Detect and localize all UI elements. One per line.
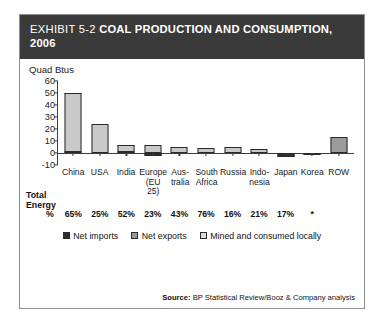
- x-axis-labels: ChinaUSAIndiaEurope(EU 25)Aus-traliaSout…: [60, 168, 352, 198]
- y-axis-unit-label: Quad Btus: [29, 64, 74, 75]
- bar-slot[interactable]: [140, 81, 167, 165]
- legend-label: Mined and consumed locally: [210, 231, 321, 241]
- bar-segment: [330, 137, 347, 153]
- total-energy-value: 52%: [113, 209, 140, 219]
- chart-body: Quad Btus 6050403020100-10 ChinaUSAIndia…: [20, 59, 364, 308]
- bar-slot[interactable]: [299, 81, 326, 165]
- y-axis-tick-mark: [54, 116, 58, 117]
- bar-positive[interactable]: [65, 93, 82, 153]
- bar-slot[interactable]: [272, 81, 299, 165]
- legend-swatch-icon: [131, 232, 138, 239]
- legend-label: Net exports: [142, 231, 187, 241]
- exhibit-card: EXHIBIT 5-2 COAL PRODUCTION AND CONSUMPT…: [19, 14, 365, 309]
- x-axis-tick-mark: [126, 153, 127, 156]
- x-axis-label: SouthAfrica: [193, 168, 219, 198]
- y-axis-tick-mark: [54, 104, 58, 105]
- y-axis-tick-mark: [54, 128, 58, 129]
- y-axis-tick-mark: [54, 140, 58, 141]
- y-axis-tick-mark: [54, 152, 58, 153]
- total-energy-value: 17%: [272, 209, 299, 219]
- bar-slot[interactable]: [60, 81, 87, 165]
- total-energy-value: 76%: [193, 209, 220, 219]
- exhibit-eyebrow: EXHIBIT 5-2: [30, 23, 96, 35]
- y-axis-tick-label: -10: [42, 160, 55, 170]
- x-axis-label-line: USA: [86, 168, 112, 178]
- legend-item[interactable]: Net exports: [131, 231, 186, 241]
- bar-positive[interactable]: [118, 145, 135, 152]
- x-axis-tick-mark: [232, 153, 233, 156]
- total-energy-value: 21%: [246, 209, 273, 219]
- bar-segment: [65, 93, 82, 151]
- x-axis-label-line: China: [60, 168, 86, 178]
- legend-item[interactable]: Net imports: [63, 231, 118, 241]
- bar-group: [60, 81, 352, 165]
- bar-positive[interactable]: [91, 124, 108, 152]
- exhibit-header: EXHIBIT 5-2 COAL PRODUCTION AND CONSUMPT…: [20, 15, 364, 59]
- x-axis-tick-mark: [285, 153, 286, 156]
- total-energy-caption-line1: Total: [26, 190, 56, 200]
- x-axis-label-line: India: [113, 168, 139, 178]
- x-axis-label-line: Japan: [273, 168, 299, 178]
- source-label: Source:: [162, 293, 190, 302]
- plot-area: 6050403020100-10: [60, 81, 352, 165]
- total-energy-value: 43%: [166, 209, 193, 219]
- total-energy-value: 23%: [140, 209, 167, 219]
- x-axis-tick-mark: [259, 153, 260, 156]
- x-axis-label: Korea: [299, 168, 325, 198]
- x-axis-tick-mark: [338, 153, 339, 156]
- x-axis-label: Indo-nesia: [246, 168, 272, 198]
- x-axis-label-line: Russia: [220, 168, 246, 178]
- x-axis-label-line: tralia: [167, 178, 193, 188]
- x-axis-label: India: [113, 168, 139, 198]
- bar-slot[interactable]: [219, 81, 246, 165]
- x-axis-tick-mark: [99, 153, 100, 156]
- x-axis-label-line: Korea: [299, 168, 325, 178]
- x-axis-label: Aus-tralia: [167, 168, 193, 198]
- x-axis-label: USA: [86, 168, 112, 198]
- x-axis-label-line: (EU 25): [139, 178, 167, 198]
- bar-slot[interactable]: [166, 81, 193, 165]
- bar-slot[interactable]: [246, 81, 273, 165]
- total-energy-caption: Total Energy: [26, 190, 56, 211]
- x-axis-label-line: ROW: [326, 168, 352, 178]
- y-axis-tick-mark: [54, 164, 58, 165]
- x-axis-label: Europe(EU 25): [139, 168, 167, 198]
- y-axis-tick-mark: [54, 80, 58, 81]
- bar-positive[interactable]: [144, 145, 161, 152]
- y-axis-tick-mark: [54, 92, 58, 93]
- x-axis-label: Russia: [220, 168, 246, 198]
- total-energy-values-row: 65%25%52%23%43%76%16%21%17%*: [60, 209, 352, 219]
- x-axis-label: China: [60, 168, 86, 198]
- bar-segment: [91, 124, 108, 152]
- x-axis-tick-mark: [73, 153, 74, 156]
- x-axis-label-line: nesia: [246, 178, 272, 188]
- bar-slot[interactable]: [113, 81, 140, 165]
- legend-swatch-icon: [63, 232, 70, 239]
- total-energy-value: 16%: [219, 209, 246, 219]
- x-axis-label: Japan: [273, 168, 299, 198]
- bar-slot[interactable]: [87, 81, 114, 165]
- chart-legend: Net importsNet exportsMined and consumed…: [20, 231, 364, 241]
- x-axis-label: ROW: [326, 168, 352, 198]
- legend-swatch-icon: [200, 232, 207, 239]
- x-axis-label-line: Africa: [193, 178, 219, 188]
- x-axis-tick-mark: [179, 153, 180, 156]
- total-energy-value: *: [299, 209, 326, 219]
- total-energy-value: 25%: [87, 209, 114, 219]
- x-axis-tick-mark: [205, 153, 206, 156]
- total-energy-value: 65%: [60, 209, 87, 219]
- bar-positive[interactable]: [330, 137, 347, 153]
- x-axis-tick-mark: [152, 153, 153, 156]
- legend-label: Net imports: [73, 231, 118, 241]
- x-axis-tick-mark: [312, 153, 313, 156]
- total-energy-value: [325, 209, 352, 219]
- bar-slot[interactable]: [193, 81, 220, 165]
- total-energy-unit: %: [46, 209, 54, 219]
- source-text: BP Statistical Review/Booz & Company ana…: [193, 293, 355, 302]
- bar-segment: [144, 145, 161, 152]
- legend-item[interactable]: Mined and consumed locally: [200, 231, 322, 241]
- source-line: Source: BP Statistical Review/Booz & Com…: [162, 293, 355, 302]
- bar-slot[interactable]: [325, 81, 352, 165]
